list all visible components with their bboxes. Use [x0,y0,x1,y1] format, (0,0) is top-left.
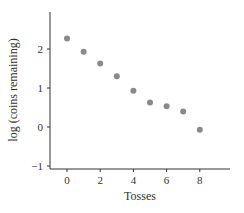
x-axis-title: Tosses [124,189,156,203]
data-point [114,73,120,79]
y-tick-label: 1 [38,82,44,94]
x-tick-label: 8 [197,174,203,186]
data-point [130,88,136,94]
y-ticks: −1012 [31,43,50,172]
x-tick-label: 2 [97,174,103,186]
data-point [147,99,153,105]
data-point [97,60,103,66]
x-tick-label: 6 [164,174,170,186]
x-ticks: 02468 [64,169,203,186]
x-tick-label: 0 [64,174,70,186]
axes [50,12,230,169]
data-point [64,35,70,41]
y-axis-title: log (coins remaining) [6,38,20,141]
data-points [64,35,203,132]
y-tick-label: 0 [38,121,44,133]
x-tick-label: 4 [131,174,137,186]
data-point [81,49,87,55]
scatter-chart: −1012 02468 Tosses log (coins remaining) [0,0,244,213]
data-point [164,103,170,109]
y-tick-label: 2 [38,43,44,55]
data-point [180,108,186,114]
data-point [197,127,203,133]
y-tick-label: −1 [31,160,43,172]
